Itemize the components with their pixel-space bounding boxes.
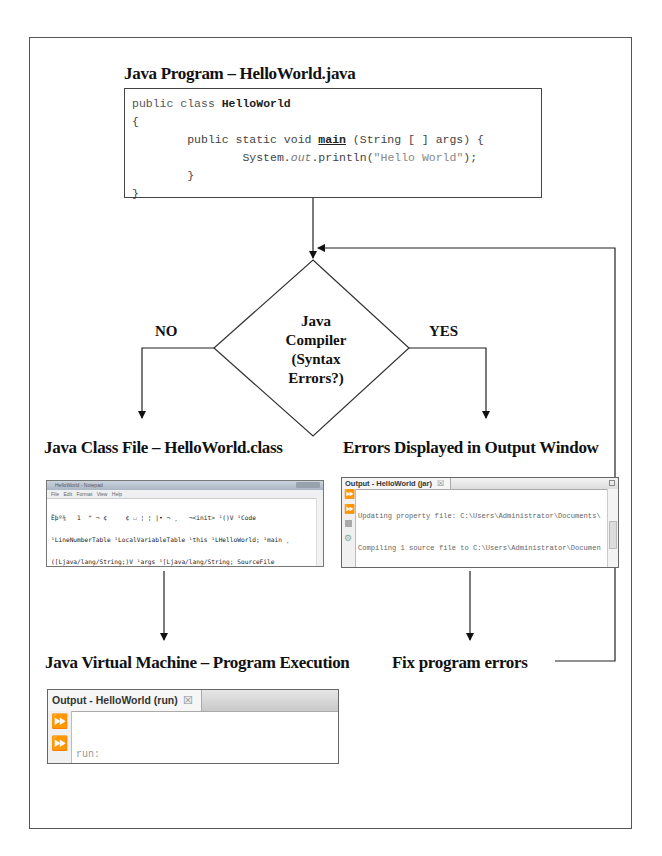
run-output-tabbar: Output - HelloWorld (run)☒ [48, 690, 338, 712]
notepad-bytecode-text: Êþº¾ 1 " ¬ ¢ ¢ ☐ ¦ ¦ |• ¬ ¸ ¬<init> ¹()V… [47, 499, 323, 567]
yes-label: YES [429, 323, 458, 340]
run-output-window: Output - HelloWorld (run)☒ ⏩ ⏩ run: Hell… [47, 689, 339, 764]
heading-java-program: Java Program – HelloWorld.java [124, 64, 356, 84]
settings-icon: ⚙ [344, 533, 352, 543]
decision-line-2: Compiler [271, 331, 361, 350]
decision-line-4: Errors?) [271, 369, 361, 388]
decision-line-3: (Syntax [271, 350, 361, 369]
code-main-method: main [318, 133, 346, 146]
run-output-text: run: Hello World BUILD SUCCESSFUL (total… [76, 714, 310, 764]
code-keyword: public class [132, 97, 222, 110]
code-class-name: HelloWorld [222, 97, 291, 110]
arrow-no-branch [142, 348, 214, 418]
code-line-6: } [132, 185, 541, 203]
heading-class-file: Java Class File – HelloWorld.class [44, 438, 283, 458]
rerun-different-icon: ⏩ [51, 735, 68, 751]
error-output-text: Updating property file: C:\Users\Adminis… [358, 490, 601, 568]
error-output-title: Output - HelloWorld (jar) [345, 479, 432, 488]
scroll-thumb [609, 521, 617, 549]
stop-icon [345, 520, 352, 527]
code-system: System. [132, 151, 291, 164]
code-end: ); [463, 151, 477, 164]
code-params: (String [ ] args) { [346, 133, 484, 146]
rerun-icon: ⏩ [344, 489, 355, 499]
error-output-window: Output - HelloWorld (jar)☒ ⏩ ⏩ ⚙ Updatin… [341, 477, 619, 568]
run-output-tab: Output - HelloWorld (run)☒ [48, 690, 202, 711]
close-icon: ☒ [183, 694, 193, 706]
notepad-titlebar: HelloWorld - Notepad [47, 481, 323, 490]
error-output-tabbar: Output - HelloWorld (jar)☒ [342, 478, 618, 490]
code-line-4: System.out.println("Hello World"); [132, 149, 541, 167]
output-line-run: run: [76, 747, 310, 764]
heading-fix-errors: Fix program errors [392, 653, 528, 673]
code-out: out [291, 151, 312, 164]
window-controls [296, 482, 320, 488]
decision-line-1: Java [271, 312, 361, 331]
code-string: "Hello World" [374, 151, 464, 164]
error-output-scrollbar [607, 489, 618, 567]
code-line-2: { [132, 113, 541, 131]
output-gutter: ⏩ ⏩ ⚙ [342, 489, 356, 567]
code-line-5: } [132, 167, 541, 185]
close-icon: ☒ [437, 479, 444, 488]
notepad-scrollbar [316, 498, 323, 566]
notepad-title: HelloWorld - Notepad [55, 482, 103, 488]
code-line-1: public class HelloWorld [132, 95, 541, 113]
bytecode-line: Êþº¾ 1 " ¬ ¢ ¢ ☐ ¦ ¦ |• ¬ ¸ ¬<init> ¹()V… [51, 514, 315, 521]
notepad-window: HelloWorld - Notepad File Edit Format Vi… [46, 480, 324, 567]
no-label: NO [155, 323, 178, 340]
notepad-menubar: File Edit Format View Help [47, 490, 323, 499]
heading-errors-output: Errors Displayed in Output Window [343, 438, 599, 458]
output-gutter: ⏩ ⏩ [48, 711, 72, 763]
run-output-title: Output - HelloWorld (run) [52, 694, 178, 706]
code-println: .println( [311, 151, 373, 164]
code-modifiers: public static void [132, 133, 318, 146]
bytecode-line: ¹LineNumberTable ¹LocalVariableTable ¹th… [51, 536, 315, 543]
bytecode-line: ([Ljava/lang/String;)V ¹args ¹[Ljava/lan… [51, 558, 315, 565]
source-code-box: public class HelloWorld { public static … [124, 88, 542, 198]
output-line: Updating property file: C:\Users\Adminis… [358, 511, 601, 522]
arrow-yes-branch [409, 348, 486, 418]
code-line-3: public static void main (String [ ] args… [132, 131, 541, 149]
heading-jvm: Java Virtual Machine – Program Execution [45, 653, 350, 673]
output-line: Compiling 1 source file to C:\Users\Admi… [358, 543, 601, 554]
minimize-icon [609, 480, 615, 486]
rerun-icon: ⏩ [51, 713, 68, 729]
compiler-decision-label: Java Compiler (Syntax Errors?) [271, 312, 361, 388]
rerun-different-icon: ⏩ [344, 504, 355, 514]
error-output-tab: Output - HelloWorld (jar)☒ [342, 478, 451, 489]
